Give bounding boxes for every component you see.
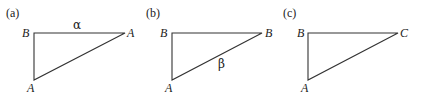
triangle-c	[308, 33, 398, 80]
vertex-c-top-right: C	[400, 26, 409, 40]
vertex-b-bottom: A	[164, 81, 173, 95]
vertex-c-top-left: B	[297, 26, 305, 40]
panel-a: (a) B A A α	[6, 6, 135, 95]
triangle-a	[34, 33, 125, 80]
panel-c-label: (c)	[283, 6, 296, 20]
panel-c: (c) B C A	[283, 6, 409, 95]
panel-b-label: (b)	[146, 6, 160, 20]
vertex-a-bottom: A	[26, 81, 35, 95]
edge-label-beta: β	[218, 57, 225, 71]
edge-label-alpha: α	[73, 18, 81, 32]
panel-b: (b) B B A β	[146, 6, 273, 95]
vertex-a-top-left: B	[22, 26, 30, 40]
triangle-b	[172, 33, 262, 80]
triangle-diagram: (a) B A A α (b) B B A β (c) B C A	[0, 0, 424, 96]
vertex-a-top-right: A	[126, 26, 135, 40]
vertex-b-top-left: B	[160, 26, 168, 40]
vertex-c-bottom: A	[300, 81, 309, 95]
vertex-b-top-right: B	[265, 26, 273, 40]
panel-a-label: (a)	[6, 6, 19, 20]
